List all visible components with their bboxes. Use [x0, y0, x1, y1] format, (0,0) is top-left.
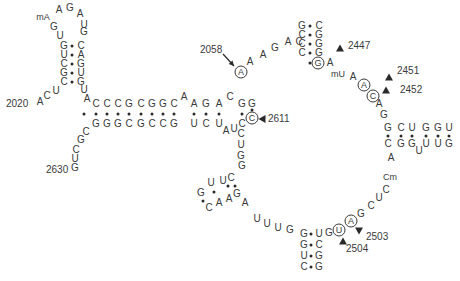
base-pair-dot: [151, 113, 154, 116]
nucleotide: U: [253, 214, 262, 224]
nucleotide: U: [237, 140, 246, 150]
nucleotide: A: [190, 99, 199, 109]
nucleotide: U: [52, 86, 61, 96]
nucleotide: G: [380, 110, 389, 120]
base-pair-dot: [71, 45, 74, 48]
base-pair-dot: [205, 113, 208, 116]
base-pair-dot: [411, 135, 414, 138]
nucleotide: G: [137, 119, 146, 129]
base-pair-dot: [117, 113, 120, 116]
nucleotide: A: [284, 37, 293, 47]
nucleotide: C: [43, 91, 52, 101]
nucleotide: G: [384, 123, 393, 133]
nucleotide: C: [114, 99, 123, 109]
base-pair-dot: [202, 200, 205, 203]
position-label: 2503: [366, 232, 388, 242]
position-label: 2630: [46, 165, 68, 175]
nucleotide: C: [202, 119, 211, 129]
nucleotide: C: [103, 99, 112, 109]
nucleotide: G: [445, 139, 454, 149]
base-pair-dot: [71, 63, 74, 66]
nucleotide: G: [325, 228, 334, 238]
base-pair-dot: [227, 185, 230, 188]
nucleotide: C: [148, 119, 157, 129]
triangle-marker-icon: [355, 228, 363, 235]
nucleotide: A: [349, 72, 358, 82]
base-pair-dot: [71, 81, 74, 84]
base-pair-dot: [241, 113, 244, 116]
nucleotide: G: [357, 209, 366, 219]
position-label: 2452: [400, 85, 422, 95]
base-pair-dot: [83, 113, 86, 116]
position-label: 2020: [6, 99, 28, 109]
triangle-marker-icon: [385, 74, 393, 81]
nucleotide: C: [397, 123, 406, 133]
base-pair-dot: [128, 113, 131, 116]
nucleotide: A: [215, 99, 224, 109]
circled-nucleotide: A: [235, 66, 248, 79]
base-pair-dot: [387, 135, 390, 138]
nucleotide: G: [248, 99, 257, 109]
rna-secondary-structure-diagram: mAAGAUGUGGUCGCCAGUGACUUACCCGCGGCAAGACGGG…: [0, 0, 460, 281]
nucleotide: G: [238, 161, 247, 171]
nucleotide: G: [233, 189, 242, 199]
base-pair-dot: [425, 135, 428, 138]
position-label: 2058: [200, 45, 222, 55]
position-label: 2504: [346, 244, 368, 254]
nucleotide: G: [286, 225, 295, 235]
nucleotide: A: [215, 198, 224, 208]
nucleotide: C: [125, 119, 134, 129]
nucleotide: C: [92, 99, 101, 109]
base-pair-dot: [234, 185, 237, 188]
nucleotide: A: [55, 5, 64, 15]
nucleotide: G: [434, 123, 443, 133]
base-pair-dot: [162, 113, 165, 116]
nucleotide: U: [263, 219, 272, 229]
base-pair-dot: [140, 113, 143, 116]
base-pair-dot: [71, 54, 74, 57]
nucleotide: U: [434, 139, 443, 149]
base-pair-dot: [400, 135, 403, 138]
nucleotide: G: [197, 188, 206, 198]
nucleotide: G: [315, 251, 324, 261]
nucleotide: U: [375, 193, 384, 203]
nucleotide: C: [367, 201, 376, 211]
base-pair-dot: [309, 52, 312, 55]
nucleotide: U: [422, 139, 431, 149]
base-pair-dot: [310, 244, 313, 247]
nucleotide: A: [246, 57, 255, 67]
nucleotide: A: [259, 50, 268, 60]
position-label: 2611: [268, 114, 290, 124]
nucleotide: A: [241, 198, 250, 208]
nucleotide: A: [76, 9, 85, 19]
nucleotide: A: [326, 58, 335, 68]
base-pair-dot: [437, 135, 440, 138]
nucleotide: A: [375, 99, 384, 109]
triangle-marker-icon: [336, 45, 344, 52]
nucleotide: C: [159, 119, 168, 129]
base-pair-dot: [251, 109, 254, 112]
nucleotide: A: [180, 92, 189, 102]
nucleotide: C: [227, 173, 236, 183]
nucleotide: G: [66, 3, 75, 13]
base-pair-dot: [106, 113, 109, 116]
base-pair-dot: [448, 135, 451, 138]
nucleotide: U: [315, 229, 324, 239]
nucleotide: U: [207, 178, 216, 188]
base-pair-dot: [193, 113, 196, 116]
nucleotide: C: [170, 99, 179, 109]
nucleotide: G: [71, 163, 80, 173]
nucleotide: U: [274, 223, 283, 233]
nucleotide: G: [114, 119, 123, 129]
nucleotide: U: [408, 123, 417, 133]
nucleotide: C: [137, 99, 146, 109]
nucleotide: C: [300, 262, 309, 272]
nucleotide: G: [148, 99, 157, 109]
nucleotide: U: [190, 119, 199, 129]
circled-nucleotide: U: [333, 224, 346, 237]
circled-nucleotide: G: [312, 57, 325, 70]
nucleotide: G: [315, 262, 324, 272]
nucleotide: G: [125, 99, 134, 109]
triangle-marker-icon: [382, 87, 390, 94]
nucleotide: G: [80, 27, 89, 37]
